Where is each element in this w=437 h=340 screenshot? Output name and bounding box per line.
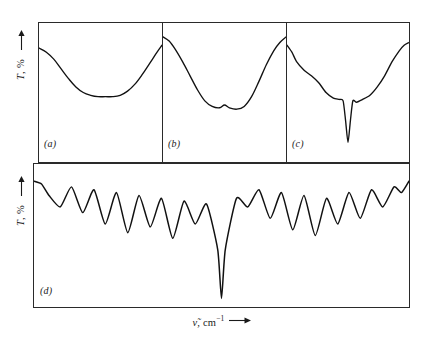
- panel-b-tag: (b): [168, 138, 180, 149]
- y-axis-symbol-top: T: [15, 74, 26, 80]
- y-axis-up-arrow-icon: [17, 176, 26, 196]
- y-axis-top-row: T, %: [8, 30, 34, 140]
- x-axis-exponent: −1: [216, 314, 224, 323]
- x-axis-label: ν̃, cm−1: [192, 314, 224, 328]
- panel-a-plot: [39, 23, 162, 162]
- panel-a-tag: (a): [44, 138, 56, 149]
- y-axis-label-top: T, %: [15, 59, 26, 80]
- panel-b-plot: [163, 23, 286, 162]
- panel-c-trace: [287, 42, 409, 142]
- y-axis-unit-bottom: , %: [15, 205, 26, 220]
- x-axis-unit: , cm: [197, 317, 216, 328]
- x-axis-right-arrow-icon: [229, 316, 251, 325]
- panel-d-tag: (d): [40, 285, 52, 296]
- panel-c-plot: [287, 23, 409, 162]
- figure-root: T, % T, % (a) (b) (c) (d) ν̃, cm: [0, 0, 437, 340]
- panel-d-trace: [34, 181, 409, 298]
- x-axis-label-group: ν̃, cm−1: [33, 314, 410, 328]
- y-axis-panel-d: T, %: [8, 176, 34, 296]
- panel-b-trace: [163, 37, 286, 109]
- y-axis-unit-top: , %: [15, 59, 26, 74]
- y-axis-symbol-bottom: T: [15, 220, 26, 226]
- panel-a-trace: [39, 45, 162, 97]
- panel-d: [33, 163, 410, 308]
- panel-a: [38, 22, 162, 163]
- panel-b: [162, 22, 286, 163]
- y-axis-label-bottom: T, %: [15, 205, 26, 226]
- panel-c-tag: (c): [292, 138, 304, 149]
- panel-d-plot: [34, 164, 409, 307]
- panel-c: [286, 22, 410, 163]
- y-axis-up-arrow-icon: [17, 30, 26, 50]
